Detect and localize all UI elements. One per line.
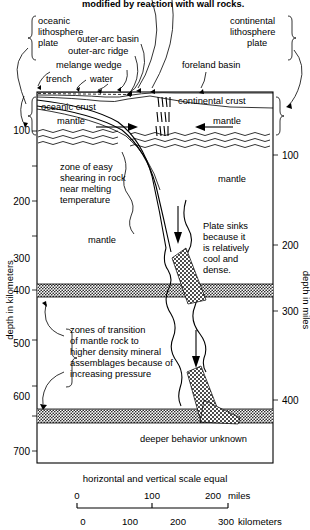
right-tick-100: 100 bbox=[282, 150, 299, 161]
asthenosphere-band bbox=[38, 130, 270, 148]
left-tick-300: 300 bbox=[13, 253, 30, 264]
leader-caption-left bbox=[138, 0, 157, 88]
label-mantle-right: mantle bbox=[213, 116, 241, 126]
right-tick-400: 400 bbox=[282, 395, 299, 406]
top-caption: modified by reaction with wall rocks. bbox=[82, 0, 244, 9]
label-shear-zone-line1: zone of easy bbox=[60, 162, 113, 172]
magma-conduits bbox=[156, 97, 170, 136]
left-bracket-line3: plate bbox=[38, 38, 58, 48]
right-bracket-line1: continental bbox=[230, 16, 275, 26]
leader-outer-arc-ridge bbox=[128, 56, 138, 94]
label-oceanic-crust: oceanic crust bbox=[41, 102, 96, 112]
left-tick-100: 100 bbox=[13, 125, 30, 136]
trench-floor bbox=[37, 96, 150, 102]
leader-foreland-basin bbox=[201, 72, 206, 88]
right-bracket-line2: lithosphere bbox=[230, 27, 275, 37]
right-bracket-line3: plate bbox=[247, 38, 267, 48]
label-trench: trench bbox=[46, 74, 72, 84]
scale-km-0: 0 bbox=[80, 516, 85, 527]
left-tick-400: 400 bbox=[13, 285, 30, 296]
arrow-melange-wedge bbox=[117, 87, 121, 92]
scale-miles-unit: miles bbox=[228, 490, 251, 501]
leader-outer-arc-basin bbox=[130, 44, 145, 92]
label-transition-line1: zones of transition bbox=[70, 325, 145, 335]
scale-note: horizontal and vertical scale equal bbox=[83, 473, 228, 484]
scalebar: 0 100 200 miles 0 100 200 300 kilometers bbox=[74, 490, 282, 527]
subduction-zone-figure: modified by reaction with wall rocks. oc… bbox=[0, 0, 310, 530]
left-tick-500: 500 bbox=[13, 338, 30, 349]
right-bracket bbox=[288, 16, 296, 60]
left-tick-600: 600 bbox=[13, 391, 30, 402]
label-plate-sinks-line2: because it bbox=[203, 232, 246, 242]
left-tick-700: 700 bbox=[13, 446, 30, 457]
label-plate-sinks-line5: dense. bbox=[203, 265, 231, 275]
arrow-water-left bbox=[76, 87, 80, 92]
label-transition-line2: of mantle rock to bbox=[70, 336, 139, 346]
label-plate-sinks-line3: is relatively bbox=[203, 243, 249, 253]
right-axis-title: depth in miles bbox=[301, 271, 310, 330]
label-foreland-basin: foreland basin bbox=[182, 60, 240, 70]
water-layer bbox=[38, 94, 126, 95]
label-outer-arc-basin: outer-arc basin bbox=[77, 34, 139, 44]
left-bracket-leader-upper bbox=[17, 48, 28, 104]
scale-miles-100: 100 bbox=[144, 490, 160, 501]
label-mantle-left-mid: mantle bbox=[88, 235, 116, 245]
label-mantle-right-mid: mantle bbox=[218, 174, 246, 184]
left-axis: 100 200 300 400 500 600 700 depth in kil… bbox=[4, 125, 37, 457]
label-water: water bbox=[89, 74, 113, 84]
scale-km-200: 200 bbox=[170, 516, 186, 527]
scale-miles-0: 0 bbox=[74, 490, 79, 501]
label-shear-zone-line4: temperature bbox=[60, 195, 110, 205]
right-crust-bracket bbox=[276, 97, 284, 135]
transition-band-400 bbox=[37, 284, 273, 297]
arrow-trench bbox=[37, 85, 41, 90]
label-transition-line4: assemblages because of bbox=[70, 358, 173, 368]
label-mantle-left: mantle bbox=[57, 116, 85, 126]
scale-miles-200: 200 bbox=[205, 490, 221, 501]
label-plate-sinks-line4: cool and bbox=[203, 254, 238, 264]
figure-canvas: modified by reaction with wall rocks. oc… bbox=[0, 0, 310, 530]
scale-km-300: 300 bbox=[218, 516, 234, 527]
leader-water-right bbox=[98, 84, 108, 90]
left-bracket bbox=[28, 16, 36, 60]
transition-arrow-up bbox=[42, 301, 47, 307]
leader-water-left bbox=[77, 80, 86, 88]
right-tick-200: 200 bbox=[282, 240, 299, 251]
label-outer-arc-ridge: outer-arc ridge bbox=[68, 46, 128, 56]
label-shear-zone-line3: near melting bbox=[60, 184, 111, 194]
transition-leader-up bbox=[45, 304, 64, 336]
left-bracket-leader-lower bbox=[21, 96, 24, 122]
leader-melange-wedge bbox=[119, 70, 127, 90]
right-bracket-arrow bbox=[286, 103, 292, 109]
scale-km-100: 100 bbox=[122, 516, 138, 527]
label-plate-sinks-line1: Plate sinks bbox=[203, 221, 248, 231]
right-axis: 100 200 300 400 depth in miles bbox=[273, 150, 310, 406]
label-melange-wedge: melange wedge bbox=[56, 60, 122, 70]
shear-zone-boundary bbox=[122, 152, 134, 234]
label-transition-line3: higher density mineral bbox=[70, 347, 161, 357]
scale-km-unit: kilometers bbox=[238, 516, 282, 527]
label-shear-zone-line2: shearing in rock bbox=[60, 173, 126, 183]
left-tick-200: 200 bbox=[13, 196, 30, 207]
right-tick-300: 300 bbox=[282, 306, 299, 317]
label-transition-line5: increasing pressure bbox=[70, 369, 151, 379]
left-axis-title: depth in kilometers bbox=[4, 260, 15, 340]
label-deeper-unknown: deeper behavior unknown bbox=[140, 434, 247, 444]
left-bracket-line1: oceanic bbox=[38, 16, 70, 26]
label-continental-crust: continental crust bbox=[178, 96, 246, 106]
right-bracket-leader bbox=[288, 50, 302, 106]
cross-section-frame bbox=[37, 92, 273, 463]
transition-leader-down bbox=[43, 372, 64, 404]
